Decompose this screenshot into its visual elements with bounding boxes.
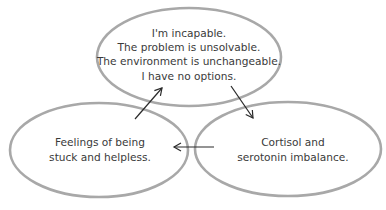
- node-beliefs-text: I'm incapable. The problem is unsolvable…: [89, 26, 289, 83]
- node-biochemistry-text: Cortisol and serotonin imbalance.: [228, 135, 358, 165]
- feelings-line-1: Feelings of being: [35, 135, 165, 150]
- beliefs-line-3: The environment is unchangeable.: [89, 54, 289, 68]
- beliefs-line-4: I have no options.: [89, 69, 289, 83]
- arrow-beliefs-to-biochemistry: [231, 86, 253, 118]
- biochemistry-line-1: Cortisol and: [228, 135, 358, 150]
- beliefs-line-2: The problem is unsolvable.: [89, 40, 289, 54]
- biochemistry-line-2: serotonin imbalance.: [228, 150, 358, 165]
- feelings-line-2: stuck and helpless.: [35, 150, 165, 165]
- beliefs-line-1: I'm incapable.: [89, 26, 289, 40]
- node-feelings-text: Feelings of being stuck and helpless.: [35, 135, 165, 165]
